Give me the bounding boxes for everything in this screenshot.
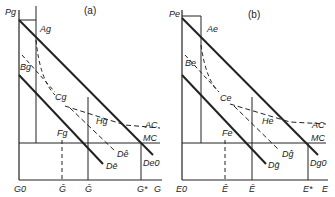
x-tick-3-a: G*: [137, 184, 148, 194]
x-tick-2-b: Ē: [249, 184, 256, 194]
dbar-label-b: Dḡ: [268, 160, 280, 170]
demand-curve-dhat: [70, 108, 116, 152]
demand-curve-gbar: [182, 75, 266, 164]
point-f-label: Fg: [57, 128, 68, 138]
panel-b-title: (b): [248, 9, 260, 20]
diagram-canvas: (a) Pg Ag Bg Cg Fg Hg AC MC Dê Dē De0 G0…: [0, 0, 335, 197]
d0-label-a: De0: [143, 158, 160, 168]
x-tick-3-b: E*: [303, 184, 313, 194]
dashed-b: [22, 55, 55, 92]
ac-label-b: AC: [311, 120, 325, 130]
demand-curve-g0: [182, 18, 318, 155]
x-tick-2-a: Ḡ: [85, 184, 92, 194]
mc-label-b: MC: [311, 133, 325, 143]
x-tick-1-b: Ê: [222, 184, 229, 194]
panel-a-title: (a): [84, 5, 96, 16]
point-h-label: He: [262, 116, 274, 126]
dhat-label-a: Dê: [117, 149, 129, 159]
x-axis-label-a: G: [154, 184, 161, 194]
panel-b: [182, 10, 328, 180]
x-axis-label-b: E: [322, 184, 329, 194]
y-axis-label-b: Pe: [169, 9, 180, 19]
demand-curve-d0: [19, 20, 153, 155]
point-c-label: Ce: [220, 93, 232, 103]
point-f-label: Fe: [222, 128, 233, 138]
dbar-label-a: Dē: [106, 161, 118, 171]
point-c-label: Cg: [55, 92, 67, 102]
point-a-label: Ae: [206, 24, 218, 34]
point-h-label: Hg: [96, 116, 108, 126]
x-tick-0-a: G0: [14, 184, 26, 194]
demand-curve-dbar: [19, 75, 103, 164]
point-b-label: Bg: [20, 62, 31, 72]
point-a-label: Ag: [39, 24, 51, 34]
ac-curve-upper: [36, 40, 55, 95]
x-tick-0-b: E0: [176, 184, 187, 194]
ac-label-a: AC: [144, 120, 158, 130]
dhat-label-b: Dĝ: [282, 149, 294, 159]
y-axis-label-a: Pg: [5, 7, 16, 17]
d0-label-b: Dg0: [310, 158, 327, 168]
point-b-label: Be: [185, 58, 196, 68]
x-tick-1-a: Ĝ: [59, 184, 66, 194]
mc-label-a: MC: [143, 133, 157, 143]
